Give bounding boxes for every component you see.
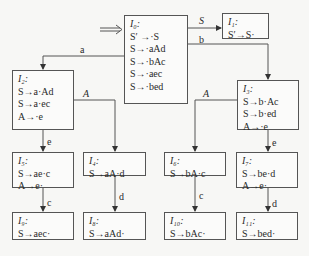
state-I8: I₈: S→aAd· <box>83 212 146 240</box>
item: S→aA·d <box>89 168 140 181</box>
state-title: I₈: <box>89 215 140 228</box>
item: S→bAc· <box>170 228 220 241</box>
state-I1: I₁: S′→S· <box>222 13 269 39</box>
state-I6: I₆: S→bA·c <box>164 152 226 176</box>
item: S→·bAc <box>130 56 182 69</box>
edge-label-I3-I7: e <box>272 138 276 148</box>
item: S→a·ec <box>18 98 68 111</box>
state-I9: I₉: S→aec· <box>12 212 74 240</box>
state-I4: I₄: S→aA·d <box>83 152 146 176</box>
state-I0: I₀: S′ →·S S→·aAd S→·bAc S→·aec S→·bed <box>124 15 188 104</box>
edge-label-I2-I5: e <box>47 137 51 147</box>
item: S→ae·c <box>18 168 68 181</box>
item: S→aec· <box>18 228 68 241</box>
item: S→a·Ad <box>18 86 68 99</box>
state-title: I₁₀: <box>170 215 220 228</box>
state-title: I₆: <box>170 155 220 168</box>
state-title: I₂: <box>18 73 68 86</box>
item: A→e· <box>242 180 292 193</box>
state-I11: I₁₁: S→bed· <box>236 212 298 240</box>
edge-label-I6-I10: c <box>199 191 203 201</box>
edge-label-I0-I2: a <box>80 45 84 55</box>
state-I5: I₅: S→ae·c A→e· <box>12 152 74 188</box>
state-I3: I₃: S→b·Ac S→b·ed A→·e <box>237 80 299 130</box>
item: S→b·ed <box>243 108 293 121</box>
item: A→·e <box>243 121 293 134</box>
state-title: I₉: <box>18 215 68 228</box>
state-title: I₅: <box>18 155 68 168</box>
edge-label-I0-I3: b <box>199 35 204 45</box>
item: S→·aAd <box>130 43 182 56</box>
item: S′→S· <box>228 29 263 42</box>
state-title: I₃: <box>243 83 293 96</box>
state-title: I₁: <box>228 16 263 29</box>
edge-label-I0-I1: S <box>199 16 204 26</box>
edge-label-I3-I6: A <box>203 89 209 99</box>
edge-label-I2-I4: A <box>83 89 89 99</box>
state-I7: I₇: S→be·d A→e· <box>236 152 298 188</box>
item: A→·e <box>18 111 68 124</box>
edge-label-I7-I11: d <box>272 199 277 209</box>
item: A→e· <box>18 180 68 193</box>
edge-label-I5-I9: c <box>47 198 51 208</box>
state-I10: I₁₀: S→bAc· <box>164 212 226 240</box>
item: S′ →·S <box>130 31 182 44</box>
state-title: I₄: <box>89 155 140 168</box>
edge-label-I4-I8: d <box>119 192 124 202</box>
item: S→·bed <box>130 81 182 94</box>
state-title: I₁₁: <box>242 215 292 228</box>
state-title: I₇: <box>242 155 292 168</box>
item: S→bA·c <box>170 168 220 181</box>
state-title: I₀: <box>130 18 182 31</box>
item: S→aAd· <box>89 228 140 241</box>
item: S→·aec <box>130 68 182 81</box>
item: S→b·Ac <box>243 96 293 109</box>
state-I2: I₂: S→a·Ad S→a·ec A→·e <box>12 70 74 130</box>
item: S→be·d <box>242 168 292 181</box>
item: S→bed· <box>242 228 292 241</box>
